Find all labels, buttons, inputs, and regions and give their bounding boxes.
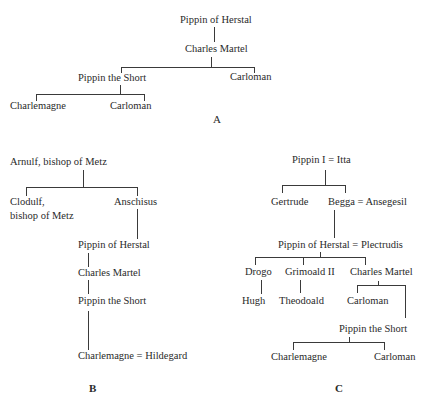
connector (325, 170, 326, 185)
connector (120, 85, 121, 94)
connector (88, 280, 89, 294)
connector (405, 285, 406, 318)
connector (293, 342, 384, 343)
node-theodoald: Theodoald (279, 295, 324, 307)
node-pippin-of-herstal: Pippin of Herstal (78, 239, 150, 251)
node-charles-martel: Charles Martel (185, 43, 248, 55)
connector (83, 170, 84, 187)
node-clodulf: Clodulf, (10, 196, 45, 208)
node-carloman: Carloman (374, 351, 415, 363)
node-pippin-the-short: Pippin the Short (78, 295, 146, 307)
node-pippin-i-itta: Pippin I = Itta (292, 154, 351, 166)
connector (282, 185, 283, 193)
node-anschisus: Anschisus (114, 196, 157, 208)
node-arnulf: Arnulf, bishop of Metz (10, 156, 107, 168)
node-pippin-of-herstal-plectrudis: Pippin of Herstal = Plectrudis (278, 239, 403, 251)
node-begga-ansegesil: Begga = Ansegesil (328, 196, 407, 208)
connector (137, 187, 138, 196)
connector (88, 253, 89, 267)
node-charlemagne: Charlemagne (10, 100, 66, 112)
connector (26, 187, 137, 188)
connector (261, 280, 262, 294)
node-carloman: Carloman (347, 295, 388, 307)
connector (345, 185, 346, 193)
node-gertrude: Gertrude (271, 196, 308, 208)
node-carloman: Carloman (110, 100, 151, 112)
node-drogo: Drogo (245, 266, 272, 278)
node-grimoald-ii: Grimoald II (285, 266, 335, 278)
node-charles-martel: Charles Martel (350, 266, 413, 278)
node-charles-martel: Charles Martel (78, 267, 141, 279)
node-charlemagne-hildegard: Charlemagne = Hildegard (78, 350, 187, 362)
connector (88, 311, 89, 350)
connector (137, 209, 138, 239)
connector (255, 257, 365, 258)
node-charlemagne: Charlemagne (271, 351, 327, 363)
diagram-label-b: B (89, 382, 96, 394)
connector (293, 342, 294, 350)
diagram-label-c: C (335, 382, 343, 394)
node-carloman: Carloman (230, 71, 271, 83)
connector (334, 210, 335, 238)
connector (282, 185, 345, 186)
node-pippin-of-herstal: Pippin of Herstal (180, 14, 252, 26)
node-clodulf-title: bishop of Metz (10, 210, 74, 222)
connector (255, 257, 256, 265)
connector (300, 280, 301, 293)
connector (121, 67, 254, 68)
node-pippin-the-short: Pippin the Short (78, 72, 146, 84)
connector (365, 257, 366, 265)
diagram-label-a: A (213, 113, 221, 125)
connector (26, 187, 27, 196)
node-pippin-the-short: Pippin the Short (339, 323, 407, 335)
connector (303, 257, 304, 265)
connector (211, 57, 212, 67)
connector (36, 94, 144, 95)
connector (357, 285, 405, 286)
connector (384, 342, 385, 350)
connector (214, 27, 215, 42)
connector (357, 285, 358, 293)
node-hugh: Hugh (242, 295, 265, 307)
